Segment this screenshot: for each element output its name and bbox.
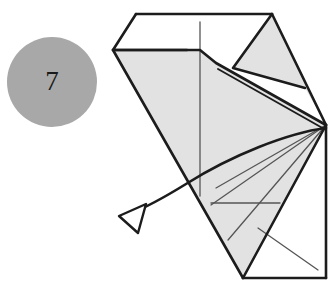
origami-step-diagram: 7 [0, 0, 336, 308]
diagram-canvas: 7 [0, 0, 336, 308]
step-badge: 7 [7, 37, 97, 127]
origami-model [113, 14, 326, 278]
step-number-label: 7 [45, 66, 59, 96]
arrow-head-icon [119, 204, 146, 233]
